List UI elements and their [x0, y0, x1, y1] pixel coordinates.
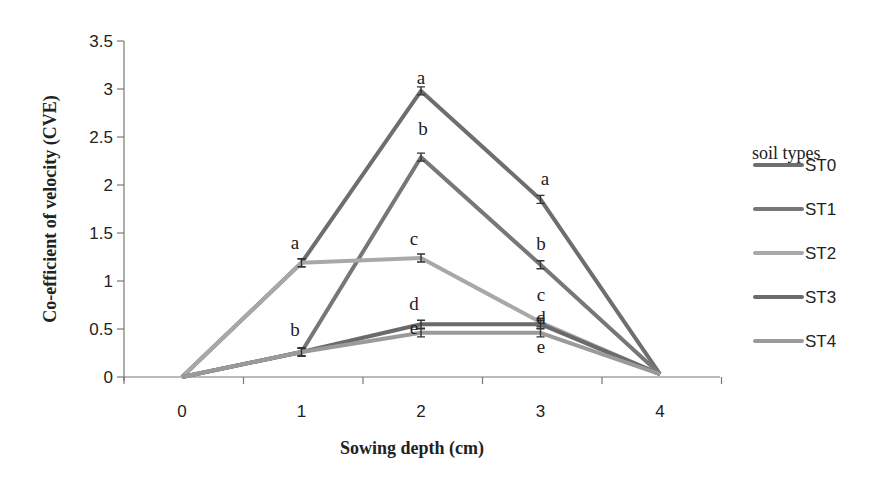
legend-item-st4: ST4 [755, 332, 836, 351]
y-tick-label: 1.5 [89, 224, 113, 243]
significance-letter: b [536, 233, 546, 254]
legend-item-st1: ST1 [755, 200, 836, 219]
significance-letter: e [410, 317, 418, 338]
y-tick-label: 0 [104, 368, 113, 387]
series-line-st4 [182, 333, 660, 377]
series-line-st2 [182, 258, 660, 377]
x-tick-label: 4 [655, 402, 664, 421]
legend-item-st2: ST2 [755, 244, 836, 263]
y-tick-label: 1 [104, 272, 113, 291]
line-chart: 00.511.522.533.501234 ababcdeabcde soil … [0, 0, 882, 484]
significance-letter: d [409, 293, 419, 314]
y-tick-label: 3.5 [89, 32, 113, 51]
x-axis-title: Sowing depth (cm) [340, 438, 484, 459]
legend-label: ST3 [805, 288, 836, 307]
y-tick-label: 2.5 [89, 128, 113, 147]
x-tick-label: 3 [536, 402, 545, 421]
legend-label: ST1 [805, 200, 836, 219]
significance-letter: c [537, 284, 545, 305]
significance-letter: d [536, 307, 546, 328]
legend: soil typesST0ST1ST2ST3ST4 [752, 143, 836, 351]
legend-label: ST2 [805, 244, 836, 263]
x-tick-label: 1 [297, 402, 306, 421]
y-axis-title: Co-efficient of velocity (CVE) [40, 95, 61, 322]
significance-letter: e [537, 336, 545, 357]
y-tick-label: 3 [104, 80, 113, 99]
y-tick-label: 0.5 [89, 320, 113, 339]
legend-item-st3: ST3 [755, 288, 836, 307]
significance-letter: a [417, 67, 426, 88]
legend-label: ST4 [805, 332, 836, 351]
significance-letters: ababcdeabcde [290, 67, 550, 357]
x-tick-label: 0 [177, 402, 186, 421]
significance-letter: b [418, 118, 428, 139]
significance-letter: b [290, 319, 300, 340]
y-tick-label: 2 [104, 176, 113, 195]
x-tick-label: 2 [416, 402, 425, 421]
significance-letter: c [410, 228, 418, 249]
significance-letter: a [291, 232, 300, 253]
significance-letter: a [541, 168, 550, 189]
legend-label: ST0 [805, 156, 836, 175]
